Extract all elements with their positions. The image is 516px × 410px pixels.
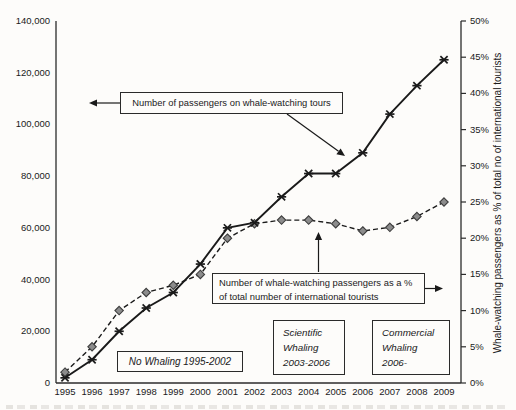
passengers-series-callout-text: Number of passengers on whale-watching t… xyxy=(132,96,331,110)
diamond-marker xyxy=(413,212,421,220)
x-axis-year-label: 2000 xyxy=(186,386,214,397)
scientific-whaling-line1: Scientific xyxy=(283,325,344,340)
x-axis-year-label: 2007 xyxy=(376,386,404,397)
diamond-marker xyxy=(359,227,367,235)
passengers-callout-left-arrow-head xyxy=(89,99,97,106)
right-axis-tick-label: 25% xyxy=(470,196,489,207)
diamond-marker xyxy=(277,216,285,224)
x-axis-year-label: 2009 xyxy=(430,386,458,397)
star-x-marker xyxy=(385,110,394,117)
right-axis-tick-label: 30% xyxy=(470,160,489,171)
x-axis-year-label: 2001 xyxy=(213,386,241,397)
star-x-marker xyxy=(331,170,340,177)
star-x-marker xyxy=(358,149,367,156)
scientific-whaling-line3: 2003-2006 xyxy=(283,355,344,370)
star-x-marker xyxy=(142,304,151,311)
percent-series-callout-line1: Number of whale-watching passengers as a… xyxy=(219,276,418,290)
commercial-whaling-line3: 2006- xyxy=(382,355,449,370)
x-axis-year-label: 2006 xyxy=(349,386,377,397)
right-axis-tick-label: 0% xyxy=(470,377,484,388)
diamond-marker xyxy=(386,223,394,231)
commercial-whaling-line1: Commercial xyxy=(382,325,449,340)
x-axis-year-label: 2003 xyxy=(268,386,296,397)
left-axis-tick-label: 80,000 xyxy=(4,170,50,181)
scientific-whaling-line2: Whaling xyxy=(283,340,344,355)
x-axis-year-label: 2002 xyxy=(241,386,269,397)
x-axis-year-label: 1996 xyxy=(78,386,106,397)
right-axis-tick-label: 5% xyxy=(470,341,484,352)
star-x-marker xyxy=(412,82,421,89)
star-x-marker xyxy=(87,356,96,363)
left-axis-tick-label: 60,000 xyxy=(4,222,50,233)
right-axis-tick-label: 40% xyxy=(470,87,489,98)
x-axis-year-label: 2008 xyxy=(403,386,431,397)
diamond-marker xyxy=(115,306,123,314)
star-x-marker xyxy=(304,170,313,177)
no-whaling-period-text: No Whaling 1995-2002 xyxy=(129,354,231,369)
percent-callout-up-arrow-head xyxy=(315,232,322,240)
x-axis-year-label: 1995 xyxy=(51,386,79,397)
left-axis-tick-label: 0 xyxy=(4,377,50,388)
diamond-marker xyxy=(332,220,340,228)
x-axis-year-label: 2005 xyxy=(322,386,350,397)
right-axis-tick-label: 45% xyxy=(470,51,489,62)
left-axis-tick-label: 140,000 xyxy=(4,15,50,26)
diamond-marker xyxy=(304,216,312,224)
x-axis-year-label: 2004 xyxy=(295,386,323,397)
scientific-whaling-period-box: Scientific Whaling 2003-2006 xyxy=(273,320,345,375)
left-axis-tick-label: 40,000 xyxy=(4,274,50,285)
right-axis-title: Whale-watching passengers as % of total … xyxy=(492,3,506,403)
diamond-marker xyxy=(223,234,231,242)
right-axis-tick-label: 35% xyxy=(470,124,489,135)
star-x-marker xyxy=(277,193,286,200)
star-x-marker xyxy=(439,56,448,63)
left-axis-tick-label: 20,000 xyxy=(4,325,50,336)
left-axis-tick-label: 100,000 xyxy=(4,118,50,129)
star-x-marker xyxy=(196,260,205,267)
star-x-marker xyxy=(115,328,124,335)
whale-watching-chart: 020,00040,00060,00080,000100,000120,0001… xyxy=(0,0,516,410)
right-axis-tick-label: 20% xyxy=(470,232,489,243)
x-axis-year-label: 1997 xyxy=(105,386,133,397)
no-whaling-period-box: No Whaling 1995-2002 xyxy=(117,351,243,372)
percent-callout-right-arrow-head xyxy=(435,285,443,292)
commercial-whaling-period-box: Commercial Whaling 2006- xyxy=(372,320,450,375)
diamond-marker xyxy=(440,198,448,206)
x-axis-year-label: 1999 xyxy=(159,386,187,397)
passengers-series-callout: Number of passengers on whale-watching t… xyxy=(120,92,343,114)
right-axis-tick-label: 50% xyxy=(470,15,489,26)
left-axis-tick-label: 120,000 xyxy=(4,67,50,78)
passengers-callout-diagonal-arrow-shaft xyxy=(287,114,339,151)
percent-series-callout-line2: of total number of international tourist… xyxy=(219,290,418,304)
diamond-marker xyxy=(142,288,150,296)
x-axis-year-label: 1998 xyxy=(132,386,160,397)
passengers-callout-diagonal-arrow-head xyxy=(336,148,345,156)
right-axis-tick-label: 10% xyxy=(470,305,489,316)
commercial-whaling-line2: Whaling xyxy=(382,340,449,355)
cut-off-caption-remnant xyxy=(6,405,510,409)
percent-series-callout: Number of whale-watching passengers as a… xyxy=(212,273,425,304)
star-x-marker xyxy=(223,224,232,231)
right-axis-tick-label: 15% xyxy=(470,268,489,279)
